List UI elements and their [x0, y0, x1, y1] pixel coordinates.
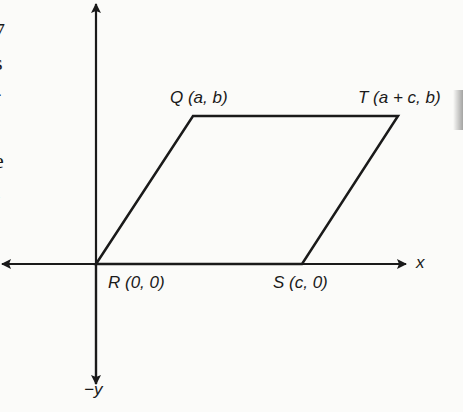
label-Q: Q (a, b) [170, 88, 228, 108]
label-neg-y-axis: −y [84, 380, 102, 400]
label-R: R (0, 0) [108, 273, 165, 293]
page-edge-shadow [453, 90, 463, 130]
diagram-canvas [0, 0, 463, 412]
label-x-axis: x [416, 253, 425, 273]
label-T: T (a + c, b) [358, 88, 441, 108]
parallelogram-RQTS [96, 116, 398, 264]
label-S: S (c, 0) [273, 273, 328, 293]
